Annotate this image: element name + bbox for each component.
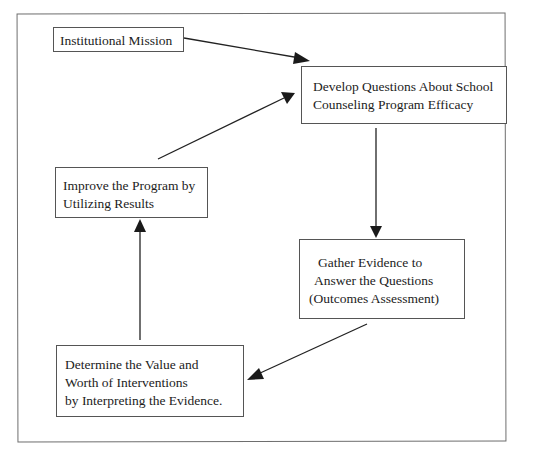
node-line: (Outcomes Assessment) <box>300 290 464 308</box>
node-gather-evidence: Gather Evidence to Answer the Questions … <box>299 239 465 319</box>
node-determine-value: Determine the Value and Worth of Interve… <box>56 345 244 417</box>
node-line: Utilizing Results <box>63 195 207 213</box>
node-institutional-mission: Institutional Mission <box>53 27 184 52</box>
node-line: Answer the Questions <box>300 272 464 290</box>
node-line: Gather Evidence to <box>300 254 464 272</box>
node-line: Develop Questions About School <box>313 78 506 96</box>
node-improve-program: Improve the Program by Utilizing Results <box>55 167 208 218</box>
node-line: by Interpreting the Evidence. <box>65 392 243 410</box>
node-line: Worth of Interventions <box>65 374 243 392</box>
node-line: Counseling Program Efficacy <box>313 96 506 114</box>
node-line: Improve the Program by <box>63 177 207 195</box>
node-line: Institutional Mission <box>60 32 183 50</box>
node-line: Determine the Value and <box>65 356 243 374</box>
node-develop-questions: Develop Questions About School Counselin… <box>301 66 507 124</box>
